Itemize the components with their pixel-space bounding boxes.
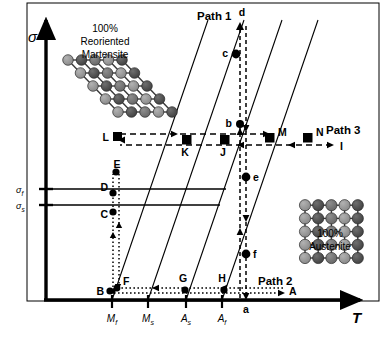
lattice-atom (140, 107, 151, 118)
lattice-atom (326, 200, 337, 211)
lattice-atom (88, 81, 99, 92)
point-label-B: B (96, 285, 104, 297)
x-tick-ms: Ms (142, 313, 154, 326)
point-marker-N (303, 133, 313, 143)
martensite-caption-line2: Reoriented (81, 36, 130, 47)
point-marker-F (114, 285, 121, 292)
arrow-right-A (278, 290, 285, 296)
point-marker-G (181, 286, 188, 293)
point-marker-L (113, 132, 122, 141)
point-labels: A B C D E F G H I J K L M N a b c d e f (96, 6, 343, 315)
lattice-atom (153, 107, 164, 118)
x-tick-mf: Mf (107, 313, 118, 326)
path1-label: Path 1 (197, 10, 232, 22)
point-label-f: f (253, 248, 257, 260)
point-marker-M (265, 133, 275, 143)
point-label-F: F (123, 275, 130, 287)
point-marker-K (182, 135, 192, 145)
point-marker-b (236, 120, 244, 128)
point-label-G: G (179, 272, 187, 284)
stress-level-lines (39, 189, 226, 205)
point-label-L: L (103, 131, 110, 143)
austenite-caption-line1: 100% (317, 228, 343, 239)
x-axis-label: T (352, 309, 363, 326)
y-axis-label: σ (28, 28, 38, 45)
point-marker-H (220, 286, 227, 293)
arrow-up-left (110, 232, 116, 238)
phase-diagram-svg: σ T σf σs Mf Ms As Af Path 1 Path 2 Path… (0, 0, 382, 343)
lattice-atom (129, 68, 140, 79)
lattice-atom (313, 200, 324, 211)
point-label-K: K (181, 146, 189, 158)
point-label-D: D (100, 181, 108, 193)
arrow-left-N (288, 142, 295, 148)
point-marker-J (220, 135, 230, 145)
y-tick-sigma-s: σs (16, 201, 25, 213)
y-tick-labels: σf σs (16, 185, 25, 213)
point-label-H: H (218, 272, 226, 284)
lattice-atom (299, 252, 310, 263)
point-label-c: c (222, 47, 228, 59)
point-label-J: J (220, 146, 226, 158)
lattice-atom (299, 226, 310, 237)
path2-label: Path 2 (258, 275, 293, 287)
y-tick-sigma-f: σf (16, 185, 24, 197)
lattice-atom (100, 94, 111, 105)
lattice-atom (63, 55, 74, 66)
x-tick-labels: Mf Ms As Af (107, 313, 228, 326)
point-marker-c (232, 50, 241, 59)
point-label-N: N (316, 126, 324, 138)
lattice-atom (113, 107, 124, 118)
x-tick-af: Af (217, 313, 228, 326)
lattice-atom (128, 81, 139, 92)
lattice-atom (339, 213, 350, 224)
arrow-right-I (327, 142, 334, 148)
arrow-up-f (237, 228, 244, 235)
point-marker-e (242, 173, 251, 182)
point-label-I: I (340, 140, 343, 152)
lattice-atom (352, 226, 363, 237)
path1-right-arrows (236, 22, 249, 300)
arrow-up-left2 (116, 222, 122, 228)
lattice-atom (352, 200, 363, 211)
lattice-atom (299, 200, 310, 211)
lattice-atom (352, 213, 363, 224)
martensite-caption-line3: Martensite (82, 49, 129, 60)
point-label-a: a (243, 303, 249, 315)
martensite-lattice (63, 55, 178, 118)
point-label-d: d (239, 6, 245, 18)
diagram-canvas: σ T σf σs Mf Ms As Af Path 1 Path 2 Path… (0, 0, 382, 343)
point-marker-B (106, 287, 113, 294)
point-label-e: e (253, 171, 259, 183)
point-label-E: E (113, 158, 120, 170)
lattice-atom (326, 213, 337, 224)
lattice-atom (115, 81, 126, 92)
lattice-atom (299, 213, 310, 224)
lattice-atom (326, 252, 337, 263)
transformation-line-as (186, 20, 282, 300)
lattice-atom (313, 213, 324, 224)
lattice-atom (339, 200, 350, 211)
martensite-caption: 100% Reoriented Martensite (81, 23, 130, 60)
lattice-atom (75, 68, 86, 79)
lattice-atom (154, 94, 165, 105)
point-marker-D (109, 189, 116, 196)
point-label-C: C (100, 208, 108, 220)
lattice-atom (127, 94, 138, 105)
arrow-down-e (243, 215, 250, 222)
lattice-atom (102, 68, 113, 79)
point-label-A: A (289, 285, 297, 297)
point-marker-C (109, 208, 116, 215)
lattice-atom (339, 252, 350, 263)
x-tick-as: As (180, 313, 192, 326)
transformation-line-ms (148, 20, 244, 300)
transformation-lines (112, 20, 318, 300)
lattice-atom (126, 107, 137, 118)
lattice-atom (313, 252, 324, 263)
lattice-atom (116, 68, 127, 79)
austenite-caption-line2: Austenite (309, 241, 351, 252)
lattice-atom (167, 107, 178, 118)
lattice-atom (352, 252, 363, 263)
lattice-atom (114, 94, 125, 105)
point-marker-f (242, 250, 251, 259)
